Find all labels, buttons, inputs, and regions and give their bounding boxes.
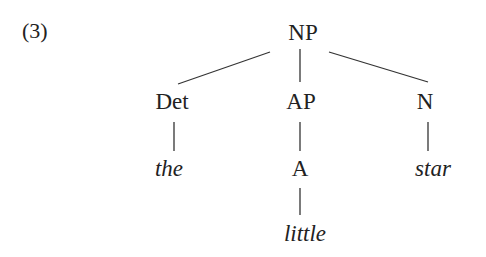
node-np: NP (288, 21, 317, 44)
leaf-the: the (155, 157, 183, 180)
tree-branches (0, 0, 486, 257)
node-n: N (417, 90, 434, 113)
branch-np-det (178, 52, 270, 84)
node-det: Det (155, 90, 188, 113)
leaf-star: star (415, 157, 451, 180)
node-a: A (292, 157, 309, 180)
branch-np-n (329, 52, 428, 82)
node-ap: AP (286, 90, 315, 113)
leaf-little: little (284, 222, 326, 245)
